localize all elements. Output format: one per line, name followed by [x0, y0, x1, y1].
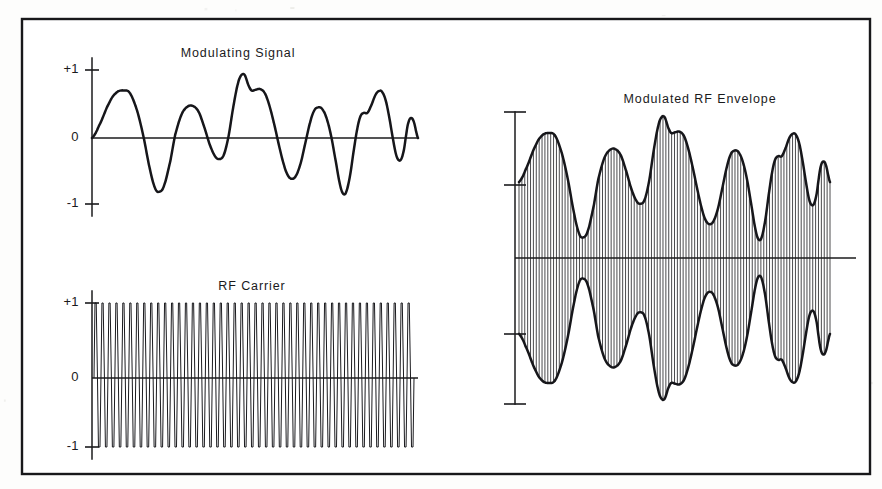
paper-speck [235, 9, 237, 11]
rf-carrier-title: RF Carrier [218, 279, 285, 293]
carrier-label-minus-one: -1 [67, 438, 79, 453]
figure-canvas: Modulating Signal +1 0 -1 RF Carrier +1 … [0, 0, 882, 489]
paper-speck [4, 400, 6, 402]
modulating-label-minus-one: -1 [67, 195, 79, 210]
paper-speck [662, 15, 666, 16]
modulating-label-zero: 0 [71, 129, 79, 144]
modulated-envelope-title: Modulated RF Envelope [623, 92, 776, 106]
am-modulation-diagram: Modulating Signal +1 0 -1 RF Carrier +1 … [0, 0, 882, 489]
modulating-signal-title: Modulating Signal [181, 46, 296, 60]
carrier-label-zero: 0 [71, 369, 79, 384]
carrier-label-plus-one: +1 [63, 294, 79, 309]
paper-speck [205, 8, 208, 10]
paper-speck [290, 7, 294, 9]
modulating-label-plus-one: +1 [63, 61, 79, 76]
